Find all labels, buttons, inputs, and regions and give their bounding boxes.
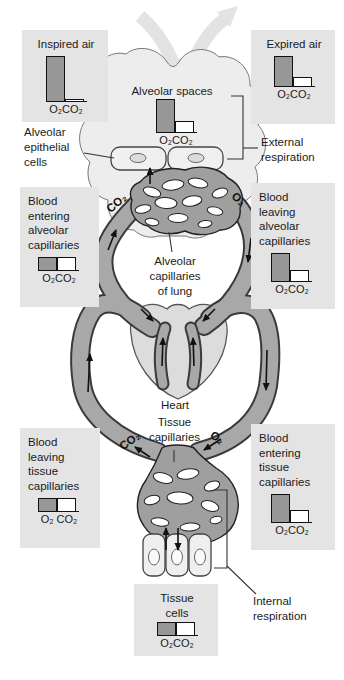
gas-axis-label: O₂ CO₂ xyxy=(30,513,88,525)
o2-bar xyxy=(38,257,57,270)
o2co2-bar-chart: O₂CO₂ xyxy=(142,622,212,649)
heart-pump-right-arrow xyxy=(193,338,194,366)
panel-expired-air: Expired air O₂CO₂ xyxy=(251,30,335,124)
gas-axis-label: O₂CO₂ xyxy=(263,283,321,295)
panel-title: Blood leaving alveolar capillaries xyxy=(259,190,329,249)
co2-bar xyxy=(57,257,76,270)
gas-axis-label: O₂CO₂ xyxy=(148,637,206,649)
internal-respiration-connector xyxy=(227,566,256,594)
gas-axis-label: O₂CO₂ xyxy=(265,88,323,100)
o2co2-bar-chart: O₂ CO₂ xyxy=(38,498,94,525)
alveolar-spaces-label: Alveolar spaces xyxy=(110,84,234,99)
gas-axis-label: O₂CO₂ xyxy=(263,524,321,536)
gas-axis-label: O₂CO₂ xyxy=(147,134,205,146)
heart-pump-left-arrow xyxy=(162,338,163,366)
panel-inspired-air: Inspired air O₂CO₂ xyxy=(22,30,108,122)
o2co2-bar-chart: O₂CO₂ xyxy=(271,253,329,295)
panel-title: Blood leaving tissue capillaries xyxy=(28,435,94,494)
panel-blood-entering-alveolar: Blood entering alveolar capillaries O₂CO… xyxy=(20,187,99,307)
internal-respiration-label: Internal respiration xyxy=(253,594,307,624)
alveolar-capillary-mesh xyxy=(130,167,242,234)
co2-bar xyxy=(175,121,194,132)
o2co2-bar-chart: O₂CO₂ xyxy=(259,56,329,100)
co2-bar xyxy=(290,270,309,281)
panel-blood-leaving-tissue: Blood leaving tissue capillaries O₂ CO₂ xyxy=(20,428,100,548)
o2-bar xyxy=(157,622,176,635)
o2-bar xyxy=(38,498,57,511)
panel-blood-leaving-alveolar: Blood leaving alveolar capillaries O₂CO₂ xyxy=(251,183,335,309)
tissue-cells-drawing xyxy=(143,534,211,576)
o2-bar xyxy=(46,56,65,101)
panel-title: Blood entering alveolar capillaries xyxy=(28,194,93,253)
panel-title: Inspired air xyxy=(30,37,102,52)
alveolar-capillaries-label: Alveolar capillaries of lung xyxy=(125,254,225,299)
heart-label: Heart xyxy=(145,398,205,413)
panel-title: Tissue cells xyxy=(142,591,212,620)
o2-bar xyxy=(271,253,290,281)
co2-bar xyxy=(293,77,312,86)
o2-bar xyxy=(274,56,293,86)
alveolar-epithelial-cells-label: Alveolar epithelial cells xyxy=(24,125,69,170)
co2-bar xyxy=(290,510,309,522)
respiration-figure: CO₂ O₂ CO₂ O₂ Inspired air O₂CO₂ Expired… xyxy=(0,0,344,680)
gas-axis-label: O₂CO₂ xyxy=(30,272,88,284)
gas-axis-label: O₂CO₂ xyxy=(37,103,95,115)
o2co2-bar-chart: O₂CO₂ xyxy=(30,56,102,115)
o2-bar xyxy=(156,99,175,132)
o2co2-bar-chart: O₂CO₂ xyxy=(38,257,93,284)
external-respiration-label: External respiration xyxy=(261,135,315,165)
artery-down-arrow xyxy=(266,350,267,390)
panel-title: Blood entering tissue capillaries xyxy=(259,431,329,490)
panel-tissue-cells: Tissue cells O₂CO₂ xyxy=(134,584,218,656)
o2co2-bar-chart: O₂CO₂ xyxy=(271,494,329,536)
panel-title: Expired air xyxy=(259,37,329,52)
o2-bar xyxy=(271,494,290,522)
alveolar-spaces-chart: O₂CO₂ xyxy=(150,99,202,146)
tissue-capillaries-label: Tissue capillaries xyxy=(137,415,212,445)
panel-blood-entering-tissue: Blood entering tissue capillaries O₂CO₂ xyxy=(251,424,335,550)
co2-bar xyxy=(176,622,195,635)
co2-bar xyxy=(57,498,76,511)
co2-bar xyxy=(65,99,84,101)
